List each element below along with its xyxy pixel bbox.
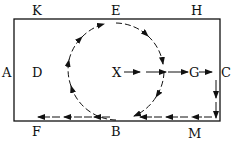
label-b: B [111,124,121,139]
label-g: G [189,65,199,80]
label-e: E [111,3,121,18]
label-x: X [112,65,122,80]
label-f: F [32,124,41,139]
label-h: H [191,3,202,18]
label-m: M [188,126,201,141]
label-k: K [32,3,42,18]
label-a: A [1,65,12,80]
diagram-canvas: K E H A D X G C F B M [0,0,231,142]
label-c: C [221,65,231,80]
label-d: D [32,65,42,80]
